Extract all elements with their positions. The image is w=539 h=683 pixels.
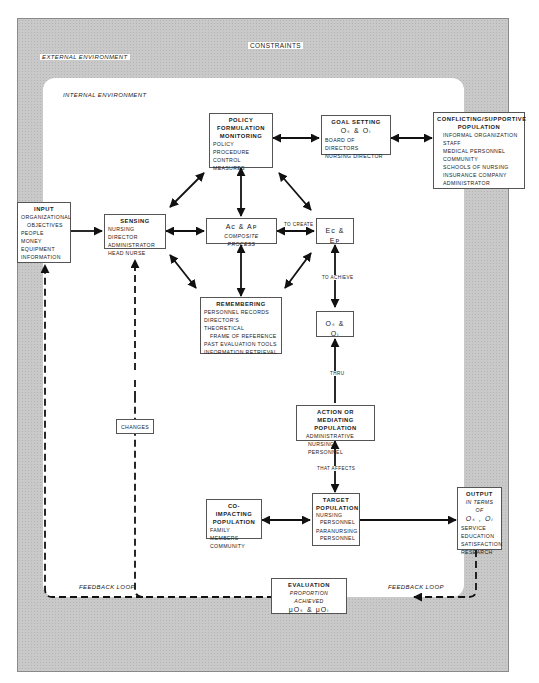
evaluation-subtitle: PROPORTION ACHIEVED [275,589,343,605]
goal-setting-item: BOARD OF DIRECTORS [325,136,387,152]
target-item: PARANURSING [316,528,356,535]
conflicting-item: INFORMAL ORGANIZATION [437,131,521,139]
changes-label: CHANGES [119,423,151,431]
conflicting-item: STAFF [437,139,521,147]
feedback-loop-left-label: FEEDBACK LOOP [79,584,135,590]
input-title: INPUT [21,205,67,213]
goal-setting-title: GOAL SETTING [325,118,387,126]
action-mediating-box: ACTION OR MEDIATING POPULATION ADMINISTR… [296,405,375,441]
co-impacting-box: CO-IMPACTING POPULATION FAMILY MEMBERS C… [206,499,262,539]
target-item: PERSONNEL [316,535,356,542]
constraints-label: CONSTRAINTS [248,42,303,49]
output-title: OUTPUT [461,490,498,498]
os-oi-symbol: Oₛ & Oᵢ [320,319,350,339]
composite-process-box: Aᴄ & Aᴘ COMPOSITE PROCESS [206,218,277,244]
thru-label: THRU [329,371,345,376]
conflicting-title: POPULATION [437,123,521,131]
input-item: MONEY [21,237,67,245]
policy-item: CONTROL MEASURES [213,156,269,172]
target-title: TARGET [316,496,356,504]
conflicting-item: ADMINISTRATOR [437,179,521,187]
input-item: ORGANIZATIONAL [21,213,67,221]
internal-environment-label: INTERNAL ENVIRONMENT [63,92,147,98]
co-impacting-title: CO-IMPACTING [210,502,258,518]
remembering-title: REMEMBERING [204,300,278,308]
input-item: INFORMATION [21,253,67,261]
remembering-item: FRAME OF REFERENCE [204,332,278,340]
output-item: SERVICE [461,524,498,532]
policy-item: PROCEDURE [213,148,269,156]
os-oi-box: Oₛ & Oᵢ [316,311,354,337]
co-impacting-title: POPULATION [210,518,258,526]
output-subtitle: IN TERMS OF [461,498,498,514]
target-population-box: TARGET POPULATION NURSING PERSONNEL PARA… [312,493,360,546]
policy-item: POLICY [213,140,269,148]
conflicting-item: INSURANCE COMPANY [437,171,521,179]
sensing-item: ADMINISTRATOR [108,241,162,249]
remembering-item: PAST EVALUATION TOOLS [204,340,278,348]
conflicting-item: SCHOOLS OF NURSING [437,163,521,171]
action-item: NURSING PERSONNEL [300,440,371,456]
action-item: ADMINISTRATIVE [300,432,371,440]
action-title: ACTION OR MEDIATING [300,408,371,424]
policy-formulation-box: POLICY FORMULATION MONITORING POLICY PRO… [209,113,273,168]
policy-title: POLICY [213,116,269,124]
evaluation-box: EVALUATION PROPORTION ACHIEVED μOₛ & μOᵢ [271,578,347,614]
remembering-item: INFORMATION RETRIEVAL [204,348,278,356]
policy-title: MONITORING [213,132,269,140]
sensing-title: SENSING [108,217,162,225]
goal-setting-box: GOAL SETTING Oₛ & Oᵢ BOARD OF DIRECTORS … [321,115,391,155]
co-impacting-item: COMMUNITY [210,542,258,550]
policy-title: FORMULATION [213,124,269,132]
action-title: POPULATION [300,424,371,432]
output-item: SATISFACTION [461,540,498,548]
co-impacting-item: FAMILY MEMBERS [210,526,258,542]
evaluation-title: EVALUATION [275,581,343,589]
input-item: EQUIPMENT [21,245,67,253]
sensing-box: SENSING NURSING DIRECTOR ADMINISTRATOR H… [104,214,166,249]
conflicting-item: COMMUNITY [437,155,521,163]
composite-subtitle: COMPOSITE PROCESS [210,232,273,248]
output-symbol: Oₛ , Oᵢ [461,514,498,524]
conflicting-item: MEDICAL PERSONNEL [437,147,521,155]
goal-setting-symbol: Oₛ & Oᵢ [325,126,387,136]
to-create-label: TO CREATE [283,222,314,227]
feedback-loop-right-label: FEEDBACK LOOP [388,584,444,590]
output-item: EDUCATION [461,532,498,540]
ec-ep-box: Eᴄ & Eᴘ [316,218,354,244]
target-title: POPULATION [316,504,356,512]
conflicting-supportive-box: CONFLICTING/SUPPORTIVE POPULATION INFORM… [433,112,525,189]
that-affects-label: THAT AFFECTS [316,466,356,471]
input-item: PEOPLE [21,229,67,237]
sensing-item: HEAD NURSE [108,249,162,257]
remembering-box: REMEMBERING PERSONNEL RECORDS DIRECTOR'S… [200,297,282,354]
ec-ep-symbol: Eᴄ & Eᴘ [320,226,350,246]
target-item: PERSONNEL [316,519,356,526]
remembering-item: PERSONNEL RECORDS [204,308,278,316]
input-item: OBJECTIVES [21,221,67,229]
changes-box: CHANGES [116,419,154,434]
remembering-item: DIRECTOR'S THEORETICAL [204,316,278,332]
sensing-item: NURSING DIRECTOR [108,225,162,241]
evaluation-symbol: μOₛ & μOᵢ [275,605,343,615]
output-box: OUTPUT IN TERMS OF Oₛ , Oᵢ SERVICE EDUCA… [457,487,502,550]
conflicting-title: CONFLICTING/SUPPORTIVE [437,115,521,123]
goal-setting-item: NURSING DIRECTOR [325,152,387,160]
composite-symbol: Aᴄ & Aᴘ [210,222,273,232]
to-achieve-label: TO ACHIEVE [321,275,355,280]
output-item: RESEARCH [461,548,498,556]
external-environment-label: EXTERNAL ENVIRONMENT [40,54,130,60]
input-box: INPUT ORGANIZATIONAL OBJECTIVES PEOPLE M… [17,202,71,263]
